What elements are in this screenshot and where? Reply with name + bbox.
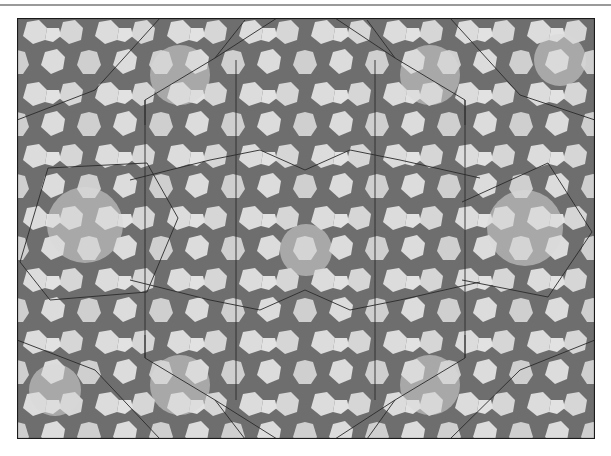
tiling-figure — [17, 18, 595, 439]
tiling-svg — [17, 18, 595, 439]
top-rule — [0, 4, 611, 6]
